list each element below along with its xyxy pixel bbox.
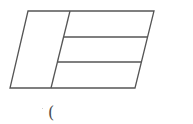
- parallelogram-diagram: [0, 0, 193, 124]
- stray-dot: [42, 108, 43, 109]
- caption-label: (: [48, 105, 54, 121]
- slanted-divider: [51, 11, 70, 88]
- parallelogram-outline: [10, 11, 154, 88]
